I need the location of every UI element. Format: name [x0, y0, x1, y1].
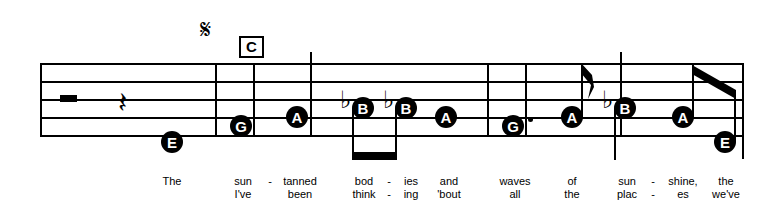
lyric-verse-1-syllable: -: [387, 176, 391, 187]
lyric-verse-2-syllable: I've: [235, 189, 252, 200]
lyric-verse-1-syllable: -: [268, 176, 272, 187]
flat-accidental: ♭: [602, 88, 613, 112]
note-stem-up: [692, 65, 694, 117]
lyric-verse-1-syllable: of: [567, 176, 576, 187]
barline-2: [253, 63, 255, 137]
lyric-verse-2-syllable: we've: [712, 189, 740, 200]
note-head-a: A: [561, 106, 583, 128]
lyric-verse-2-syllable: ing: [404, 189, 419, 200]
note-stem-down: [614, 108, 616, 160]
lyric-verse-1-syllable: waves: [499, 176, 530, 187]
music-notation-sheet: 𝄋 C 𝄽 EGA♭B♭BAGA♭BAE Thesun-tannedbod-ie…: [0, 0, 784, 210]
note-head-a: A: [435, 106, 457, 128]
lyric-verse-1-syllable: bod: [355, 176, 373, 187]
barline-4: [487, 63, 489, 137]
barline-1: [215, 63, 217, 137]
system-left-edge: [40, 63, 42, 137]
lyric-verse-1-syllable: -: [651, 176, 655, 187]
quarter-rest: 𝄽: [118, 88, 127, 118]
note-head-a: A: [672, 106, 694, 128]
beam-eighth-group-1: [352, 152, 397, 160]
note-head-b: B: [614, 97, 636, 119]
lyric-verse-1-syllable: and: [440, 176, 458, 187]
lyric-verse-1-syllable: The: [163, 176, 182, 187]
staff-line-5: [40, 135, 742, 137]
lyric-verse-2-syllable: -: [651, 189, 655, 200]
barline-5: [525, 63, 527, 137]
lyric-verse-2-syllable: all: [509, 189, 520, 200]
staff-line-4: [40, 117, 742, 119]
note-head-a: A: [286, 106, 308, 128]
barline-7: [742, 63, 744, 159]
flat-accidental: ♭: [383, 88, 394, 112]
lyric-verse-1-syllable: the: [718, 176, 733, 187]
beam-eighth-group-2: [692, 65, 736, 104]
lyric-verse-2-syllable: been: [288, 189, 312, 200]
note-head-b: B: [395, 97, 417, 119]
note-stem-down: [395, 108, 397, 160]
note-head-g: G: [230, 115, 252, 137]
eighth-note-flag: [580, 63, 602, 107]
lyric-verse-1-syllable: sun: [618, 176, 636, 187]
lyric-verse-2-syllable: 'bout: [437, 189, 461, 200]
lyric-verse-1-syllable: sun: [234, 176, 252, 187]
flat-accidental: ♭: [340, 88, 351, 112]
note-stem-up: [734, 90, 736, 142]
barline-6: [620, 52, 622, 137]
note-head-e: E: [161, 131, 183, 153]
lyric-verse-1-syllable: shine,: [668, 176, 697, 187]
lyric-verse-1-syllable: ies: [404, 176, 418, 187]
rehearsal-mark-c: C: [239, 36, 264, 58]
lyric-verse-2-syllable: es: [677, 189, 689, 200]
lyric-verse-2-syllable: -: [387, 189, 391, 200]
lyric-verse-2-syllable: think: [352, 189, 375, 200]
half-rest: [60, 95, 77, 102]
staff-line-1: [40, 63, 742, 65]
note-head-b: B: [352, 97, 374, 119]
staff-line-2: [40, 81, 742, 83]
note-stem-down: [352, 108, 354, 160]
lyric-verse-2-syllable: plac: [617, 189, 637, 200]
augmentation-dot: [528, 117, 533, 122]
note-head-e: E: [714, 131, 736, 153]
barline-3: [310, 52, 312, 137]
segno-icon: 𝄋: [200, 16, 211, 42]
lyric-verse-2-syllable: the: [564, 189, 579, 200]
lyric-verse-1-syllable: tanned: [283, 176, 317, 187]
note-head-g: G: [502, 115, 524, 137]
